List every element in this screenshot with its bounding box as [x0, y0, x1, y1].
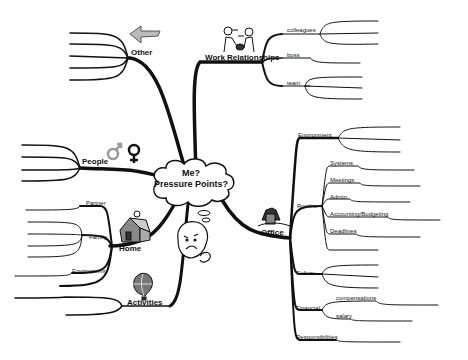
branch-office[interactable]: Office — [261, 229, 284, 237]
node-systems[interactable]: Systems — [330, 160, 353, 166]
branch-other[interactable]: Other — [131, 49, 152, 57]
left-arrow-icon — [130, 26, 160, 43]
node-home-environment[interactable]: Environment — [72, 268, 106, 274]
hot-air-balloon-icon — [133, 273, 152, 300]
node-culture[interactable]: Culture — [296, 270, 315, 276]
node-colleagues[interactable]: colleagues — [287, 27, 316, 33]
node-admin[interactable]: Admin — [330, 194, 347, 200]
node-responsibilities[interactable]: Responsibilities — [296, 334, 338, 340]
central-topic: Me? Pressure Points? — [150, 168, 232, 190]
node-partner[interactable]: Partner — [86, 200, 106, 206]
house-icon — [120, 211, 150, 242]
branch-activities[interactable]: Activities — [127, 299, 163, 307]
central-topic-line1: Me? — [150, 168, 232, 179]
branch-home[interactable]: Home — [119, 245, 141, 253]
male-female-symbols-icon — [108, 144, 139, 163]
node-routine[interactable]: Routine — [297, 203, 318, 209]
node-financial[interactable]: Financial — [296, 305, 320, 311]
central-topic-line2: Pressure Points? — [150, 179, 232, 190]
node-family[interactable]: Family — [89, 234, 107, 240]
node-team[interactable]: team — [287, 80, 300, 86]
branch-people[interactable]: People — [82, 158, 108, 166]
node-salary[interactable]: salary — [336, 313, 352, 319]
node-meetings[interactable]: Meetings — [330, 177, 354, 183]
node-compensations[interactable]: compensations — [336, 295, 376, 301]
node-accounting-budgeting[interactable]: Accounting/Budgeting — [330, 211, 388, 217]
node-deadlines[interactable]: Deadlines — [330, 228, 357, 234]
office-building-icon — [258, 208, 290, 226]
handshake-people-icon — [224, 27, 254, 52]
node-boss[interactable]: boss — [287, 52, 300, 58]
branch-work-relationships[interactable]: Work Relationships — [205, 54, 280, 62]
node-office-environment[interactable]: Environment — [298, 132, 332, 138]
